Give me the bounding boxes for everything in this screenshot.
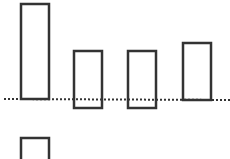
bar-4 — [183, 43, 211, 100]
bar-diagram — [0, 0, 230, 159]
bar-5-partial — [21, 138, 49, 159]
bar-1 — [21, 4, 49, 99]
bars-group — [21, 4, 211, 159]
